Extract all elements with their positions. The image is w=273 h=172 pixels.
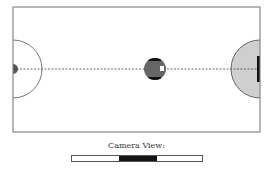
camera-view-label: Camera View: xyxy=(0,141,273,150)
robot-bottom-band xyxy=(147,77,161,81)
soccer-field xyxy=(0,0,273,140)
field-frame xyxy=(13,7,260,132)
robot xyxy=(144,57,166,81)
camera-view-window[interactable] xyxy=(119,156,157,161)
robot-top-band xyxy=(147,57,161,61)
camera-view-bar[interactable] xyxy=(71,155,203,162)
robot-heading-marker-icon xyxy=(160,66,164,71)
